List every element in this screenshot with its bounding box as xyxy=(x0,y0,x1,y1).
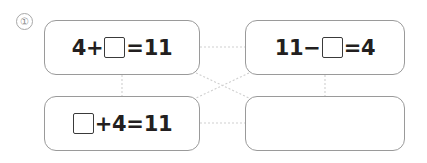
equation-text: +4=11 xyxy=(72,112,173,136)
equation-segment: =4 xyxy=(344,36,376,60)
equation-card-top-right[interactable]: 11− =4 xyxy=(245,20,405,75)
equation-segment: +4=11 xyxy=(95,112,173,136)
blank-answer-box[interactable] xyxy=(104,37,125,58)
connector-diagonal-a-to-d xyxy=(196,73,249,98)
equation-segment: 11− xyxy=(275,36,321,60)
equation-card-bottom-right[interactable] xyxy=(245,96,405,151)
connector-diagonal-b-to-c xyxy=(196,73,249,98)
equation-text: 11− =4 xyxy=(275,36,376,60)
equation-segment: 4+ xyxy=(72,36,104,60)
equation-segment: =11 xyxy=(126,36,172,60)
equation-text: 4+ =11 xyxy=(72,36,173,60)
equation-card-top-left[interactable]: 4+ =11 xyxy=(44,20,200,75)
blank-answer-box[interactable] xyxy=(322,37,343,58)
problem-number-marker: ① xyxy=(16,13,33,30)
equation-card-bottom-left[interactable]: +4=11 xyxy=(44,96,200,151)
worksheet-canvas: ① 4+ =11 11− =4 +4=11 xyxy=(0,0,427,163)
blank-answer-box[interactable] xyxy=(73,113,94,134)
